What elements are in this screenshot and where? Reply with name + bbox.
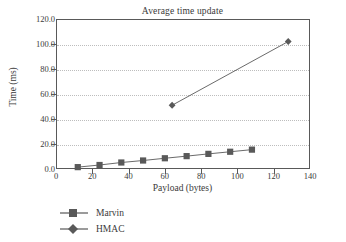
x-tick-mark — [129, 169, 130, 174]
y-tick-label: 40.0 — [15, 114, 55, 124]
y-tick-label: 60.0 — [15, 89, 55, 99]
legend-label-marvin: Marvin — [90, 208, 124, 218]
square-marker-icon — [96, 162, 102, 168]
square-marker-icon — [118, 159, 124, 165]
legend-label-hmac: HMAC — [90, 224, 125, 234]
y-tick-label: 100.0 — [15, 39, 55, 49]
x-tick-mark — [237, 169, 238, 174]
x-axis-title: Payload (bytes) — [55, 183, 310, 193]
square-marker-icon — [227, 149, 233, 155]
x-tick-label: 140 — [293, 171, 327, 181]
diamond-marker-icon — [58, 222, 90, 236]
square-marker-icon — [184, 153, 190, 159]
chart-legend: Marvin HMAC — [58, 205, 208, 237]
legend-item-marvin: Marvin — [58, 205, 208, 221]
diamond-marker-icon — [285, 38, 292, 45]
diamond-marker-icon — [169, 102, 176, 109]
square-marker-icon — [205, 151, 211, 157]
y-tick-label: 120.0 — [15, 14, 55, 24]
y-tick-label: 80.0 — [15, 64, 55, 74]
series-hmac — [169, 38, 292, 109]
x-tick-mark — [201, 169, 202, 174]
x-tick-mark — [165, 169, 166, 174]
x-tick-mark — [274, 169, 275, 174]
series-marvin — [75, 147, 255, 171]
square-marker-icon — [162, 155, 168, 161]
x-tick-label: 0 — [39, 171, 73, 181]
chart-figure: Average time update Time (ms) Payload (b… — [0, 0, 346, 242]
y-axis-title: Time (ms) — [8, 52, 18, 122]
square-marker-icon — [249, 147, 255, 153]
x-tick-mark — [92, 169, 93, 174]
series-layer — [56, 19, 310, 169]
y-tick-label: 20.0 — [15, 139, 55, 149]
square-marker-icon — [58, 206, 90, 220]
square-marker-icon — [140, 157, 146, 163]
square-marker-icon — [75, 164, 81, 170]
series-line — [172, 42, 288, 106]
legend-item-hmac: HMAC — [58, 221, 208, 237]
chart-title: Average time update — [55, 6, 310, 16]
